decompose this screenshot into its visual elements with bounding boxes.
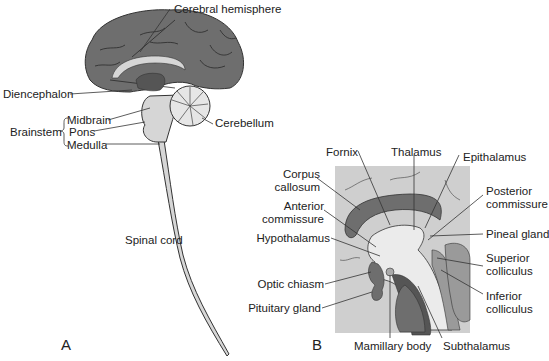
diencephalon-shape — [136, 73, 165, 91]
panel-a-drawing — [60, 9, 244, 356]
label-corpus-callosum-line1: Corpus — [270, 168, 320, 181]
label-cerebral-hemisphere: Cerebral hemisphere — [174, 3, 281, 16]
panel-letter-a: A — [61, 336, 71, 353]
panel-letter-b: B — [312, 336, 322, 353]
label-inferior-colliculus-line2: colliculus — [486, 303, 533, 316]
label-subthalamus: Subthalamus — [443, 340, 510, 353]
label-posterior-commissure-line2: commissure — [486, 198, 548, 211]
label-optic-chiasm: Optic chiasm — [250, 278, 324, 291]
label-fornix: Fornix — [326, 146, 358, 159]
label-superior-colliculus-line2: colliculus — [486, 265, 533, 278]
panel-b-drawing — [317, 151, 483, 338]
label-brainstem: Brainstem — [10, 126, 62, 139]
label-pituitary-gland: Pituitary gland — [230, 302, 321, 315]
label-epithalamus: Epithalamus — [463, 151, 526, 164]
label-corpus-callosum-line2: callosum — [270, 181, 320, 194]
label-anterior-commissure-line2: commissure — [255, 213, 324, 226]
label-pineal-gland: Pineal gland — [486, 228, 549, 241]
label-spinal-cord: Spinal cord — [125, 234, 183, 247]
label-hypothalamus: Hypothalamus — [250, 232, 330, 245]
label-pons: Pons — [69, 126, 95, 139]
label-mamillary-body: Mamillary body — [354, 340, 431, 353]
mamillary-body-shape — [386, 268, 394, 276]
cerebellum-shape — [170, 86, 210, 126]
label-thalamus: Thalamus — [391, 146, 442, 159]
label-medulla: Medulla — [67, 139, 107, 152]
label-diencephalon: Diencephalon — [3, 88, 73, 101]
spinal-cord-shape — [158, 140, 229, 356]
label-superior-colliculus-line1: Superior — [486, 252, 529, 265]
label-posterior-commissure-line1: Posterior — [486, 185, 532, 198]
label-anterior-commissure-line1: Anterior — [255, 200, 324, 213]
label-cerebellum: Cerebellum — [215, 117, 274, 130]
label-inferior-colliculus-line1: Inferior — [486, 290, 522, 303]
